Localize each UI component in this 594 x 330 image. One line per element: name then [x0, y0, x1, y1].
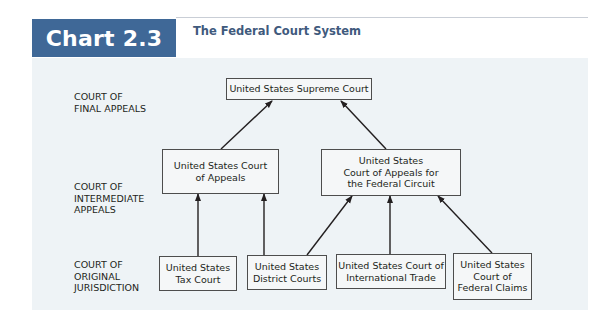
node-label: United States Court — [174, 160, 267, 172]
node-supreme-court: United States Supreme Court — [226, 78, 372, 100]
node-label: United States — [359, 155, 423, 167]
node-label: Tax Court — [176, 274, 221, 286]
node-tax-court: United States Tax Court — [159, 256, 237, 291]
arrow-federal-circuit-to-supreme — [341, 101, 386, 149]
node-label: the Federal Circuit — [347, 178, 434, 190]
arrow-appeals-to-supreme — [221, 101, 272, 149]
node-international-trade: United States Court of International Tra… — [336, 254, 446, 289]
node-label: Court of — [473, 271, 511, 283]
node-label: United States Supreme Court — [229, 83, 368, 95]
node-label: United States Court of — [338, 260, 444, 272]
node-label: District Courts — [253, 273, 321, 285]
node-label: United States — [255, 261, 319, 273]
node-federal-claims: United States Court of Federal Claims — [453, 253, 532, 300]
node-label: Court of Appeals for — [343, 167, 438, 179]
node-federal-circuit: United States Court of Appeals for the F… — [321, 149, 461, 196]
node-label: Federal Claims — [458, 282, 528, 294]
arrow-claims-to-federal-circuit — [438, 196, 492, 253]
node-label: of Appeals — [196, 172, 246, 184]
node-label: United States — [166, 262, 230, 274]
node-district-courts: United States District Courts — [247, 255, 327, 290]
node-label: International Trade — [346, 272, 436, 284]
node-label: United States — [460, 259, 524, 271]
node-court-of-appeals: United States Court of Appeals — [162, 149, 279, 194]
arrow-district-to-federal-circuit — [307, 196, 352, 255]
